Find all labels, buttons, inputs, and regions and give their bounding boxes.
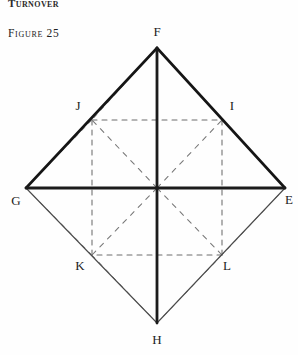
solid-edge-F-E: [157, 48, 285, 188]
dashed-spoke-center-L: [157, 188, 222, 255]
vertex-label-H: H: [152, 332, 161, 347]
vertex-label-F: F: [153, 24, 160, 39]
vertex-label-L: L: [223, 258, 231, 273]
dashed-spoke-center-J: [92, 120, 157, 188]
solid-edge-H-E: [157, 188, 285, 323]
octahedron-diagram: F E H G J I K L: [0, 0, 298, 355]
dashed-hidden-edges: [26, 48, 285, 323]
solid-outline: [26, 48, 285, 323]
figure-page: Turnover Figure 25: [0, 0, 298, 355]
dashed-spoke-center-I: [157, 120, 222, 188]
vertex-label-K: K: [75, 258, 85, 273]
dashed-spoke-center-K: [92, 188, 157, 255]
vertex-labels: F E H G J I K L: [11, 24, 293, 347]
vertex-label-E: E: [285, 192, 293, 207]
solid-edge-G-F: [26, 48, 157, 188]
solid-axes: [26, 48, 285, 323]
vertex-label-G: G: [11, 193, 20, 208]
vertex-label-J: J: [75, 98, 80, 113]
vertex-label-I: I: [230, 98, 234, 113]
